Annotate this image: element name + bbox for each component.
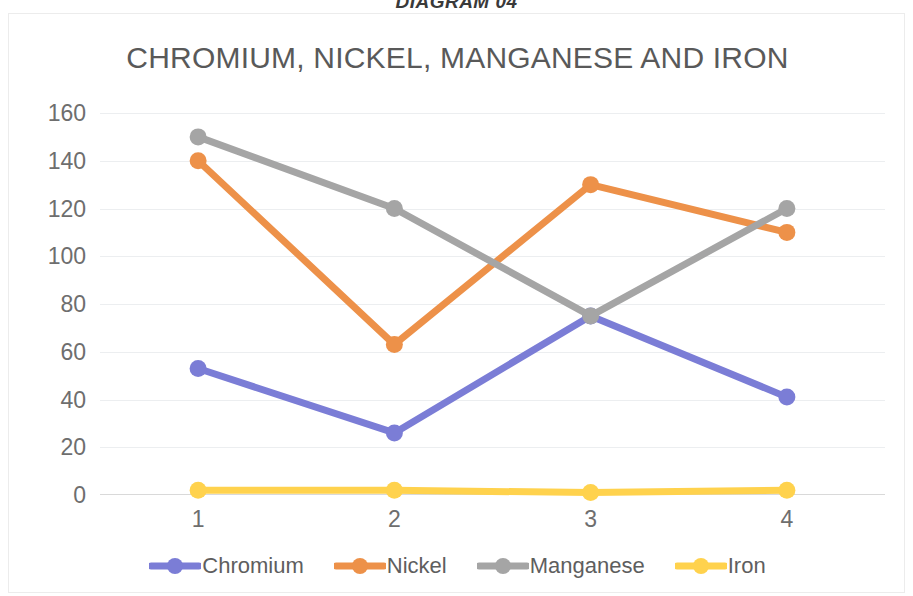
y-axis-tick-label: 60 [26,338,86,365]
series-layer [100,113,885,495]
series-manganese [190,128,796,324]
x-axis-tick-label: 2 [354,506,434,533]
series-iron [190,482,796,501]
legend-marker-icon [675,556,727,576]
series-line [198,137,787,316]
data-point-marker [190,152,207,169]
legend-label: Manganese [530,553,645,579]
series-line [198,316,787,433]
y-axis-tick-label: 140 [26,147,86,174]
data-point-marker [386,424,403,441]
chart-frame: CHROMIUM, NICKEL, MANGANESE AND IRON 020… [8,13,905,593]
legend-item-nickel[interactable]: Nickel [334,553,447,579]
legend-item-manganese[interactable]: Manganese [477,553,645,579]
data-point-marker [190,360,207,377]
legend-marker-icon [477,556,529,576]
data-point-marker [778,200,795,217]
data-point-marker [778,482,795,499]
data-point-marker [386,336,403,353]
legend-item-chromium[interactable]: Chromium [149,553,303,579]
data-point-marker [582,484,599,501]
data-point-marker [190,128,207,145]
document-heading: DIAGRAM 04 [0,0,913,13]
x-axis-ticks: 1234 [100,506,885,546]
legend-label: Iron [728,553,766,579]
data-point-marker [582,307,599,324]
x-axis-tick-label: 1 [158,506,238,533]
legend-item-iron[interactable]: Iron [675,553,766,579]
plot-area [100,113,885,495]
chart-title: CHROMIUM, NICKEL, MANGANESE AND IRON [9,41,906,75]
data-point-marker [386,482,403,499]
x-axis-tick-label: 3 [551,506,631,533]
series-chromium [190,307,796,441]
legend-label: Chromium [202,553,303,579]
y-axis-tick-label: 80 [26,291,86,318]
y-axis-tick-label: 20 [26,434,86,461]
data-point-marker [778,224,795,241]
data-point-marker [386,200,403,217]
y-axis-tick-label: 120 [26,195,86,222]
chart-legend: ChromiumNickelManganeseIron [9,553,906,579]
y-axis-tick-label: 0 [26,482,86,509]
y-axis-tick-label: 100 [26,243,86,270]
data-point-marker [190,482,207,499]
y-axis-tick-label: 40 [26,386,86,413]
series-line [198,490,787,492]
legend-label: Nickel [387,553,447,579]
legend-marker-icon [149,556,201,576]
chart-page: DIAGRAM 04 CHROMIUM, NICKEL, MANGANESE A… [0,0,913,596]
series-line [198,161,787,345]
data-point-marker [778,389,795,406]
legend-marker-icon [334,556,386,576]
y-axis-tick-label: 160 [26,100,86,127]
data-point-marker [582,176,599,193]
x-axis-tick-label: 4 [747,506,827,533]
